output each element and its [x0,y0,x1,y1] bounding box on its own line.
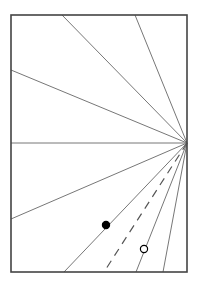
ray-line [64,143,187,272]
ray-line [11,143,187,219]
ray-line [11,70,187,143]
ray-line [163,143,187,272]
open-point [140,245,147,252]
points-group [102,221,147,252]
filled-point [102,221,109,228]
ray-fan-diagram [0,0,201,283]
rays-group [11,15,187,272]
ray-line [135,15,187,143]
ray-line [62,15,187,143]
